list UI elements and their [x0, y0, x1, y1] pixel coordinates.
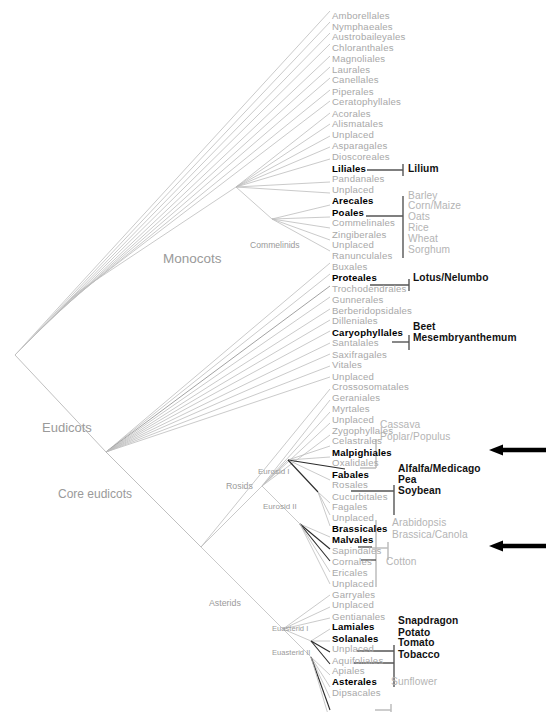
clade-label-eurosid-i: Eurosid I [258, 467, 290, 476]
crop-label-tomato: Tomato [398, 638, 435, 649]
clade-label-monocots: Monocots [163, 251, 222, 266]
order-label-dilleniales: Dilleniales [332, 316, 378, 326]
order-label-pandanales: Pandanales [332, 174, 385, 184]
order-label-fagales: Fagales [332, 502, 367, 512]
order-label-brassicales: Brassicales [332, 524, 387, 534]
crop-label-sunflower: Sunflower [391, 677, 437, 688]
crop-label-beet: Beet [413, 322, 436, 333]
crop-label-soybean: Soybean [398, 486, 441, 497]
order-label-malvales: Malvales [332, 535, 374, 545]
order-label-alismatales: Alismatales [332, 119, 383, 129]
order-label-celastrales: Celastrales [332, 436, 382, 446]
order-label-crossosomatales: Crossosomatales [332, 382, 409, 392]
order-label-unplaced: Unplaced [332, 240, 374, 250]
order-label-gunnerales: Gunnerales [332, 295, 384, 305]
order-label-chloranthales: Chloranthales [332, 43, 394, 53]
order-label-unplaced: Unplaced [332, 130, 374, 140]
order-label-dioscoreales: Dioscoreales [332, 152, 390, 162]
crop-label-cassava: Cassava [380, 420, 420, 431]
order-label-santalales: Santalales [332, 338, 379, 348]
crop-label-poplar-populus: Poplar/Populus [380, 432, 451, 443]
order-label-buxales: Buxales [332, 262, 367, 272]
crop-label-mesembryanthemum: Mesembryanthemum [413, 333, 517, 344]
order-label-cornales: Cornales [332, 557, 372, 567]
order-label-dipsacales: Dipsacales [332, 688, 381, 698]
crop-label-lotus-nelumbo: Lotus/Nelumbo [413, 273, 488, 284]
clade-label-euasterid-i: Euasterid I [272, 624, 308, 633]
order-label-myrtales: Myrtales [332, 404, 370, 414]
clade-label-rosids: Rosids [226, 481, 253, 491]
order-label-unplaced: Unplaced [332, 513, 374, 523]
order-label-asterales: Asterales [332, 677, 377, 687]
order-label-ranunculales: Ranunculales [332, 251, 392, 261]
order-label-rosales: Rosales [332, 480, 368, 490]
order-label-trochodendrales: Trochodendrales [332, 284, 407, 294]
crop-label-alfalfa-medicago: Alfalfa/Medicago [398, 464, 481, 475]
order-label-unplaced: Unplaced [332, 185, 374, 195]
order-label-unplaced: Unplaced [332, 644, 374, 654]
order-label-unplaced: Unplaced [332, 600, 374, 610]
order-label-oxalidales: Oxalidales [332, 458, 379, 468]
order-label-vitales: Vitales [332, 360, 362, 370]
clade-label-core-eudicots: Core eudicots [58, 487, 132, 501]
order-label-lamiales: Lamiales [332, 622, 375, 632]
crop-label-cotton: Cotton [386, 557, 417, 568]
order-label-unplaced: Unplaced [332, 415, 374, 425]
clade-label-euasterid-ii: Euasterid II [272, 648, 310, 657]
crop-label-snapdragon: Snapdragon [398, 616, 458, 627]
order-label-commelinales: Commelinales [332, 218, 395, 228]
crop-label-rice: Rice [408, 223, 429, 234]
order-label-sapindales: Sapindales [332, 546, 381, 556]
order-label-amborellales: Amborellales [332, 11, 390, 21]
clade-label-eudicots: Eudicots [42, 420, 92, 435]
crop-label-corn-maize: Corn/Maize [408, 201, 461, 212]
order-label-arecales: Arecales [332, 196, 374, 206]
clade-label-eurosid-ii: Eurosid II [263, 502, 297, 511]
tree-branches [0, 0, 548, 712]
crop-label-brassica-canola: Brassica/Canola [392, 530, 468, 541]
order-label-canellales: Canellales [332, 75, 379, 85]
order-label-unplaced: Unplaced [332, 579, 374, 589]
order-label-magnoliales: Magnoliales [332, 54, 385, 64]
crop-label-arabidopsis: Arabidopsis [392, 518, 446, 529]
order-label-proteales: Proteales [332, 273, 377, 283]
highlight-arrows [489, 445, 546, 552]
crop-label-sorghum: Sorghum [408, 245, 450, 256]
order-label-apiales: Apiales [332, 666, 365, 676]
clade-label-commelinids: Commelinids [250, 240, 300, 250]
phylogenetic-tree-figure: AmborellalesNymphaealesAustrobaileyalesC… [0, 0, 548, 712]
crop-label-lilium: Lilium [408, 164, 439, 175]
order-label-ericales: Ericales [332, 568, 368, 578]
order-label-asparagales: Asparagales [332, 141, 387, 151]
order-label-geraniales: Geraniales [332, 393, 380, 403]
clade-label-asterids: Asterids [209, 598, 241, 608]
order-label-austrobaileyales: Austrobaileyales [332, 32, 405, 42]
order-label-ceratophyllales: Ceratophyllales [332, 97, 401, 107]
crop-label-tobacco: Tobacco [398, 650, 440, 661]
